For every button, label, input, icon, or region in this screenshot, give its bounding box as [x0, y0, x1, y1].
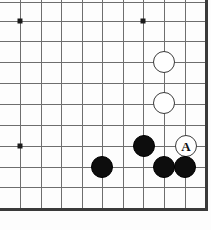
board-edge-bottom	[0, 208, 208, 211]
star-point-top-right	[141, 19, 146, 24]
black-stone-left[interactable]	[91, 156, 113, 178]
grid-line-horizontal-2	[0, 41, 206, 42]
stone-label-a: A	[181, 140, 190, 153]
grid-line-horizontal-9	[0, 187, 206, 188]
board-edge-right	[205, 0, 208, 211]
grid-line-vertical-6	[143, 0, 144, 208]
white-stone-marked-a[interactable]: A	[175, 135, 197, 157]
board-surface	[0, 0, 211, 230]
star-point-left	[18, 144, 23, 149]
grid-line-horizontal-1	[0, 21, 206, 22]
star-point-top-left	[18, 19, 23, 24]
black-stone-bottom-mid[interactable]	[153, 156, 175, 178]
go-board-diagram: A	[0, 0, 211, 230]
white-stone-upper[interactable]	[153, 51, 175, 73]
grid-line-vertical-1	[41, 0, 42, 208]
grid-line-horizontal-6	[0, 125, 206, 126]
grid-line-vertical-0	[20, 0, 21, 208]
grid-line-vertical-2	[61, 0, 62, 208]
grid-line-horizontal-0	[0, 2, 206, 3]
white-stone-lower[interactable]	[153, 92, 175, 114]
grid-line-horizontal-5	[0, 104, 206, 105]
black-stone-bottom-right[interactable]	[174, 156, 196, 178]
grid-line-horizontal-3	[0, 62, 206, 63]
grid-line-vertical-3	[82, 0, 83, 208]
grid-line-horizontal-4	[0, 83, 206, 84]
black-stone-center[interactable]	[133, 135, 155, 157]
grid-line-vertical-5	[123, 0, 124, 208]
